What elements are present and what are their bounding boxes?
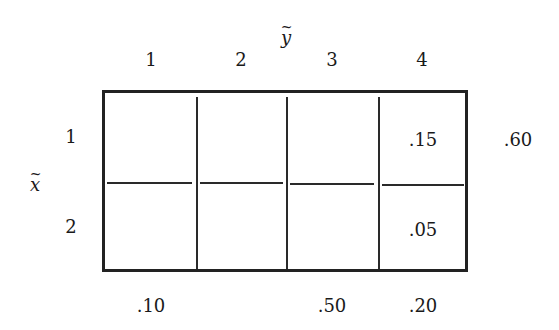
row-divider-segment-2 bbox=[200, 182, 283, 184]
column-marginal-3: .50 bbox=[318, 297, 347, 315]
row-divider-segment-3 bbox=[290, 183, 374, 185]
column-header-4: 4 bbox=[416, 51, 427, 69]
column-divider-3 bbox=[378, 97, 380, 269]
column-variable-label: ~ y bbox=[281, 29, 291, 47]
column-header-3: 3 bbox=[326, 51, 337, 69]
cell-r1-c4: .15 bbox=[409, 131, 438, 149]
tilde-accent: ~ bbox=[281, 20, 293, 34]
cell-r2-c4: .05 bbox=[409, 221, 438, 239]
column-marginal-1: .10 bbox=[137, 297, 166, 315]
column-divider-2 bbox=[286, 97, 288, 269]
column-header-1: 1 bbox=[145, 51, 156, 69]
row-divider-segment-1 bbox=[107, 182, 192, 184]
column-marginal-4: .20 bbox=[409, 297, 438, 315]
tilde-accent: ~ bbox=[30, 167, 42, 181]
row-divider-segment-4 bbox=[382, 184, 464, 186]
row-variable-label: ~ x bbox=[30, 176, 40, 194]
row-header-2: 2 bbox=[65, 218, 76, 236]
probability-table bbox=[102, 90, 468, 272]
column-divider-1 bbox=[196, 97, 198, 269]
column-header-2: 2 bbox=[235, 51, 246, 69]
row-header-1: 1 bbox=[65, 128, 76, 146]
row-marginal-1: .60 bbox=[504, 131, 533, 149]
